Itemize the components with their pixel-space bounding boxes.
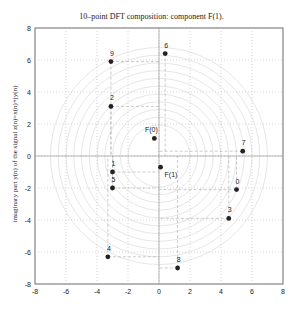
point-label: 0: [236, 178, 240, 185]
point-label: 4: [107, 245, 111, 252]
data-point: [105, 254, 110, 259]
x-tick-label: -2: [125, 288, 131, 295]
x-tick-label: 6: [250, 288, 254, 295]
data-point: [109, 59, 114, 64]
data-point: [226, 216, 231, 221]
y-tick-label: 6: [27, 57, 31, 64]
data-point: [158, 165, 163, 170]
data-point: [163, 51, 168, 56]
data-point: [240, 149, 245, 154]
x-tick-label: 8: [281, 288, 285, 295]
point-label: 2: [110, 94, 114, 101]
point-label: 1: [112, 160, 116, 167]
data-point: [109, 104, 114, 109]
point-label: 9: [110, 50, 114, 57]
point-label: 5: [112, 176, 116, 183]
point-label: 8: [177, 256, 181, 263]
y-tick-label: -4: [25, 217, 31, 224]
x-tick-label: -4: [94, 288, 100, 295]
x-tick-label: 0: [157, 288, 161, 295]
x-tick-label: 2: [188, 288, 192, 295]
point-label: F(0): [145, 126, 158, 134]
chart: 10–point DFT composition: component F(1)…: [0, 0, 303, 312]
data-point: [110, 170, 115, 175]
point-label: F(1): [165, 171, 178, 179]
point-label: 6: [164, 42, 168, 49]
data-point: [152, 136, 157, 141]
y-tick-label: 8: [27, 25, 31, 32]
y-tick-label: -2: [25, 185, 31, 192]
data-point: [234, 187, 239, 192]
x-tick-label: -8: [32, 288, 38, 295]
y-tick-label: -8: [25, 281, 31, 288]
x-tick-label: 4: [219, 288, 223, 295]
data-point: [175, 266, 180, 271]
y-tick-label: 4: [27, 89, 31, 96]
data-point: [110, 186, 115, 191]
x-tick-label: -6: [63, 288, 69, 295]
point-label: 3: [228, 206, 232, 213]
y-tick-label: 2: [27, 121, 31, 128]
y-tick-label: 0: [27, 153, 31, 160]
y-tick-label: -6: [25, 249, 31, 256]
point-label: 7: [242, 139, 246, 146]
plot-area: -8-6-4-202468-8-6-4-2024680123456789F(0)…: [0, 0, 303, 312]
